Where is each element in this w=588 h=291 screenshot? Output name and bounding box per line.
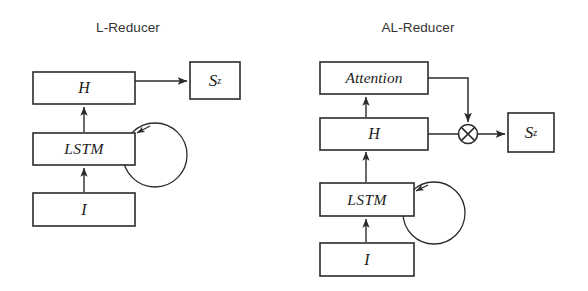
l-reducer-node-lstm — [33, 133, 135, 165]
al-reducer-node-attention — [320, 62, 428, 94]
al-reducer-node-lstm — [320, 183, 414, 216]
al-reducer-group — [320, 62, 554, 276]
l-reducer-node-h — [33, 72, 135, 104]
l-reducer-node-sz — [190, 62, 240, 99]
l-reducer-group — [33, 62, 240, 226]
al-reducer-node-i — [320, 243, 414, 276]
figure-canvas: L-Reducer AL-Reducer — [0, 0, 588, 291]
al-reducer-node-multiply — [459, 125, 478, 144]
al-reducer-node-h — [320, 118, 428, 150]
al-reducer-node-sz — [508, 113, 554, 152]
diagram-vector-layer — [0, 0, 588, 291]
l-reducer-node-i — [33, 193, 135, 226]
al-reducer-edge-attention-mul — [428, 78, 468, 122]
